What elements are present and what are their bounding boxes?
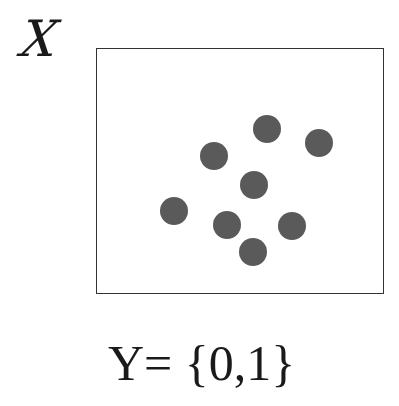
- data-point: [200, 142, 228, 170]
- data-point: [160, 197, 188, 225]
- output-space-label: Y= {0,1}: [108, 338, 295, 388]
- data-point: [278, 212, 306, 240]
- data-point: [213, 211, 241, 239]
- data-point: [240, 171, 268, 199]
- input-space-label: X: [18, 14, 61, 64]
- data-point: [305, 129, 333, 157]
- data-point: [253, 115, 281, 143]
- data-point: [239, 238, 267, 266]
